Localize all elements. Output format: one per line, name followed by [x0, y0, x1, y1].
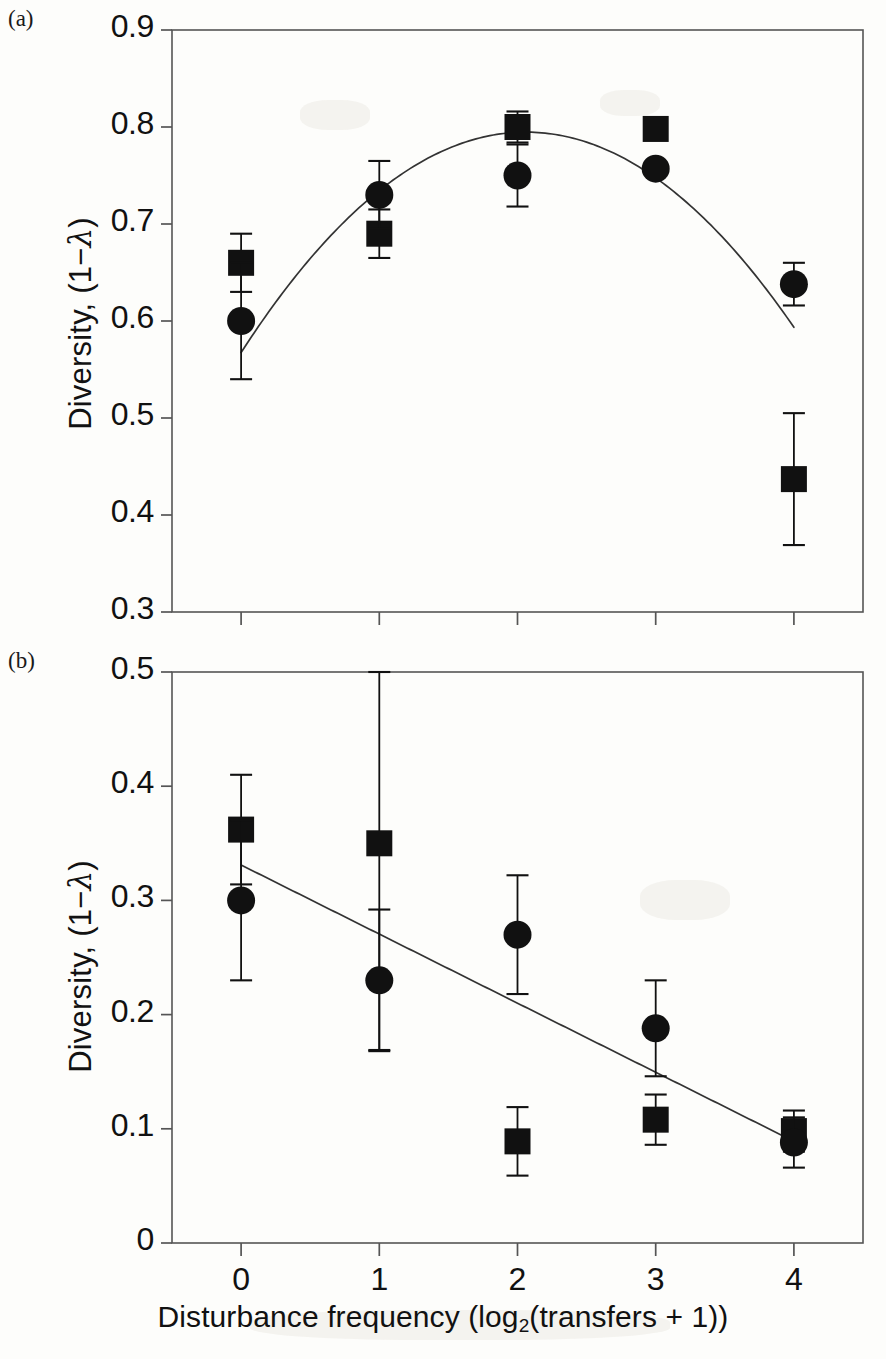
- data-point: [643, 116, 669, 142]
- data-point: [780, 263, 808, 306]
- plot-canvas: [0, 0, 886, 1359]
- data-point: [504, 144, 532, 206]
- marker-circle: [642, 1014, 670, 1042]
- marker-square: [505, 1128, 531, 1154]
- data-point: [642, 980, 670, 1076]
- data-point: [227, 263, 255, 379]
- data-point: [227, 820, 255, 980]
- marker-circle: [504, 921, 532, 949]
- data-point: [781, 413, 807, 545]
- marker-square: [781, 466, 807, 492]
- marker-circle: [365, 181, 393, 209]
- marker-circle: [780, 270, 808, 298]
- marker-circle: [365, 966, 393, 994]
- marker-square: [366, 830, 392, 856]
- data-point: [504, 875, 532, 994]
- marker-circle: [642, 155, 670, 183]
- marker-square: [643, 1107, 669, 1133]
- marker-circle: [227, 307, 255, 335]
- data-point: [365, 161, 393, 229]
- data-point: [642, 155, 670, 183]
- data-point: [505, 1107, 531, 1176]
- marker-circle: [227, 886, 255, 914]
- marker-circle: [780, 1129, 808, 1157]
- data-point: [365, 910, 393, 1052]
- panel-b-plot: [161, 672, 863, 1256]
- panel-a-plot: [161, 30, 863, 625]
- marker-square: [643, 116, 669, 142]
- marker-square: [505, 114, 531, 140]
- data-point: [505, 111, 531, 142]
- marker-circle: [504, 162, 532, 190]
- data-point: [643, 1095, 669, 1145]
- figure-root: (a) (b) Diversity, (1−λ) Diversity, (1−λ…: [0, 0, 886, 1359]
